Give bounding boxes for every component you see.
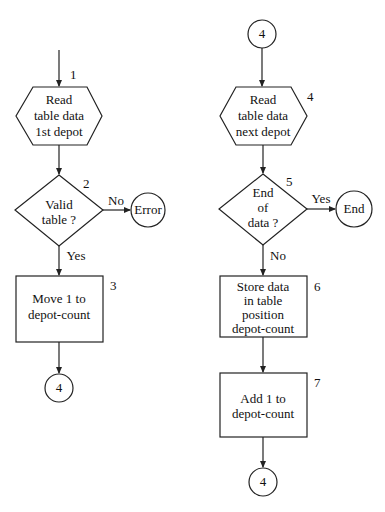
node-text-line: depot-count [232, 406, 294, 421]
node-text-line: table data [34, 108, 84, 123]
read-next-depot-node: Read table data next depot [220, 87, 307, 145]
no-branch-label: No [108, 193, 124, 208]
step-number-4: 4 [307, 89, 314, 104]
node-text-line: End [253, 185, 274, 200]
flowchart-canvas: 1 Read table data 1st depot Valid table … [0, 0, 385, 512]
store-data-process: Store data in table position depot-count [220, 276, 307, 337]
left-flow: 1 Read table data 1st depot Valid table … [15, 50, 165, 402]
connector-label: 4 [56, 380, 63, 395]
node-text-line: Move 1 to [32, 291, 85, 306]
connector-label: 4 [259, 26, 266, 41]
no-branch-label: No [270, 248, 286, 263]
yes-branch-label: Yes [67, 248, 86, 263]
node-text-line: position [242, 307, 284, 322]
node-text-line: table ? [42, 212, 77, 227]
error-terminal: Error [131, 193, 165, 227]
node-text-line: Add 1 to [240, 391, 286, 406]
yes-branch-label: Yes [312, 191, 331, 206]
connector-label: 4 [260, 474, 267, 489]
node-text-line: 1st depot [35, 124, 83, 139]
step-number-2: 2 [83, 176, 90, 191]
step-number-3: 3 [110, 278, 117, 293]
node-text-line: depot-count [28, 307, 90, 322]
node-text-line: Valid [45, 197, 73, 212]
valid-table-decision: Valid table ? [15, 175, 103, 246]
step-number-5: 5 [286, 174, 293, 189]
step-number-6: 6 [314, 279, 321, 294]
terminal-label: End [344, 201, 365, 216]
node-text-line: Store data [237, 279, 290, 294]
step-number-7: 7 [314, 375, 321, 390]
right-flow: 4 Read table data next depot 4 End of da… [219, 20, 372, 496]
end-terminal: End [336, 191, 372, 227]
end-of-data-decision: End of data ? [219, 174, 307, 245]
node-text-line: Read [46, 92, 73, 107]
add-one-process: Add 1 to depot-count [220, 373, 307, 437]
move-one-process: Move 1 to depot-count [16, 276, 103, 342]
read-first-depot-node: Read table data 1st depot [16, 87, 102, 145]
node-text-line: Read [250, 92, 277, 107]
node-text-line: next depot [236, 124, 291, 139]
connector-out-right: 4 [249, 468, 277, 496]
step-number-1: 1 [70, 67, 77, 82]
node-text-line: table data [238, 108, 288, 123]
node-text-line: depot-count [232, 321, 294, 336]
connector-in-right: 4 [248, 20, 276, 48]
node-text-line: data ? [248, 215, 279, 230]
node-text-line: of [258, 200, 270, 215]
node-text-line: in table [244, 293, 283, 308]
terminal-label: Error [134, 202, 162, 217]
connector-out-left: 4 [45, 374, 73, 402]
